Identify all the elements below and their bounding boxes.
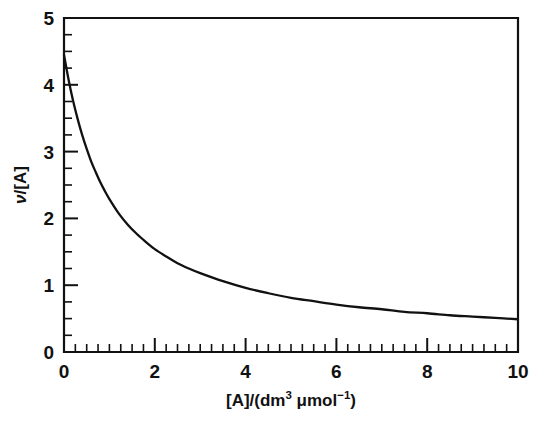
data-curve-line: [64, 55, 518, 320]
x-tick-label: 6: [331, 361, 342, 382]
y-tick-label: 1: [43, 275, 54, 296]
y-tick-label: 3: [43, 142, 54, 163]
y-tick-label: 5: [43, 8, 54, 29]
x-axis-title-lead: [A]/(dm: [226, 391, 285, 410]
y-axis-title-rest: /[A]: [11, 166, 30, 194]
x-axis-title: [A]/(dm3 μmol−1): [226, 389, 356, 410]
y-axis-title: ν/[A]: [11, 166, 30, 204]
x-tick-label: 0: [59, 361, 70, 382]
x-axis-title-exp-mol: −1: [337, 389, 351, 401]
x-tick-label: 4: [240, 361, 251, 382]
svg-text:[A]/(dm3 μmol−1): [A]/(dm3 μmol−1): [226, 389, 356, 410]
y-tick-label: 2: [43, 208, 54, 229]
x-tick-label: 8: [422, 361, 433, 382]
x-axis-title-tail: ): [350, 391, 356, 410]
x-tick-label: 10: [507, 361, 528, 382]
x-tick-label: 2: [150, 361, 161, 382]
axis-frame-path: [64, 18, 518, 352]
y-axis-tick-labels: 012345: [43, 8, 54, 363]
y-axis-ticks: [64, 35, 78, 336]
plot-area: 012345 0246810 ν/[A] [A]/(dm3 μmol−1): [0, 0, 544, 428]
axis-frame: [64, 18, 518, 352]
x-axis-tick-labels: 0246810: [59, 361, 529, 382]
chart-figure: 012345 0246810 ν/[A] [A]/(dm3 μmol−1): [0, 0, 544, 428]
y-tick-label: 0: [43, 342, 54, 363]
x-axis-ticks: [75, 338, 506, 352]
y-tick-label: 4: [43, 75, 54, 96]
svg-text:ν/[A]: ν/[A]: [11, 166, 30, 204]
x-axis-title-mid: μmol: [292, 391, 337, 410]
